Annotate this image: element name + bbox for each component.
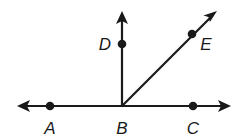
arrow-e-icon: [203, 11, 217, 22]
point-a: [46, 102, 55, 111]
label-d: D: [99, 35, 111, 54]
label-e: E: [200, 35, 212, 54]
label-a: A: [43, 119, 55, 138]
label-c: C: [187, 119, 200, 138]
point-e: [188, 30, 197, 39]
point-d: [118, 40, 127, 49]
label-b: B: [116, 119, 127, 138]
ray-be: [122, 15, 213, 106]
angle-diagram: A B C D E: [0, 0, 244, 140]
diagram-canvas: A B C D E: [0, 0, 244, 140]
point-c: [189, 102, 198, 111]
